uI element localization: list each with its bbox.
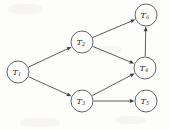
graph-canvas: T1T2T3T4T5T6: [0, 0, 170, 130]
edge-t2-to-t4: [93, 46, 130, 61]
edge-layer: [29, 20, 148, 103]
node-t6[interactable]: T6: [135, 4, 157, 26]
task-precedence-figure: T1T2T3T4T5T6: [0, 0, 170, 130]
arrowhead-t2-to-t6: [130, 20, 135, 24]
edge-t1-to-t2: [29, 49, 68, 67]
edge-t2-to-t6: [93, 21, 131, 37]
arrowhead-t1-to-t2: [67, 47, 72, 51]
arrowhead-t4-to-t6: [144, 27, 148, 32]
arrowhead-t3-to-t5: [130, 99, 135, 103]
node-t1[interactable]: T1: [7, 61, 29, 83]
edge-t3-to-t4: [92, 76, 130, 96]
node-t5[interactable]: T5: [135, 90, 157, 112]
node-t4[interactable]: T4: [134, 57, 156, 79]
arrowhead-t1-to-t3: [66, 93, 71, 97]
node-t3[interactable]: T3: [71, 90, 93, 112]
edge-t1-to-t3: [29, 77, 68, 95]
arrowhead-t2-to-t4: [129, 60, 134, 64]
node-t2[interactable]: T2: [71, 31, 93, 53]
